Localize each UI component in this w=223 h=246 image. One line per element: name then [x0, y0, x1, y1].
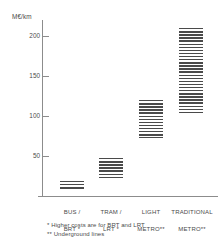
- footnote-double-star: ** Underground lines: [47, 230, 145, 239]
- x-label-traditional-metro-line2: METRO**: [178, 226, 205, 232]
- y-axis-line: [42, 20, 43, 197]
- y-tick-150: [43, 76, 49, 77]
- x-label-tram-lrt-line1: TRAM /: [100, 209, 121, 215]
- plot-area: M€/km 200 150 100 50 BUS / BRT *: [0, 0, 223, 246]
- x-label-traditional-metro-line1: TRADITIONAL: [171, 209, 212, 215]
- y-tick-label-100: 100: [14, 112, 40, 119]
- y-tick-100: [43, 116, 49, 117]
- footnote-single-star: * Higher costs are for BRT and LRT: [47, 221, 145, 230]
- x-axis-line: [38, 196, 218, 197]
- x-label-light-metro-line1: LIGHT: [142, 209, 160, 215]
- y-tick-label-150: 150: [14, 72, 40, 79]
- y-tick-label-50: 50: [14, 152, 40, 159]
- chart-footnotes: * Higher costs are for BRT and LRT ** Un…: [47, 221, 145, 239]
- x-label-traditional-metro: TRADITIONAL METRO**: [167, 200, 217, 233]
- bar-tram-lrt: [99, 158, 123, 178]
- x-label-bus-brt-line1: BUS /: [64, 209, 80, 215]
- bar-bus-brt: [60, 181, 84, 190]
- y-tick-50: [43, 156, 49, 157]
- y-axis-unit-label: M€/km: [12, 13, 32, 20]
- bar-traditional-metro: [179, 28, 203, 114]
- y-tick-200: [43, 36, 49, 37]
- bar-light-metro: [139, 100, 163, 138]
- cost-range-chart: M€/km 200 150 100 50 BUS / BRT *: [0, 0, 223, 246]
- y-tick-label-200: 200: [14, 32, 40, 39]
